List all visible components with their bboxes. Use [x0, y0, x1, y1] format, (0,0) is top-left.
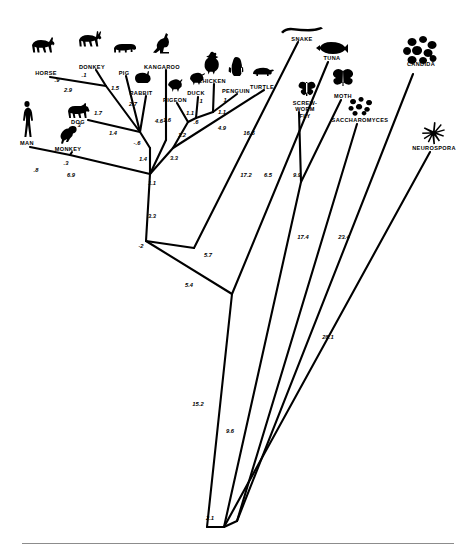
- branch-value: 4.6: [155, 118, 163, 124]
- branch-value: 3.3: [170, 155, 178, 161]
- branch-value: .1: [82, 72, 87, 78]
- branch-value: 1.5: [111, 85, 119, 91]
- taxon-label-neurospora: NEUROSPORA: [412, 145, 456, 151]
- branch-value: 4.9: [218, 125, 226, 131]
- branch-value: .9: [55, 77, 60, 83]
- branch-value: 2.9: [64, 87, 72, 93]
- branch-value: -.6: [134, 140, 141, 146]
- monkey-icon: [61, 126, 77, 144]
- tuna-icon: [316, 42, 348, 54]
- branch-value: 1.2: [178, 132, 186, 138]
- moth-icon: [333, 69, 353, 86]
- branch-value: 1.1: [186, 110, 194, 116]
- branch-value: 9.9: [293, 172, 301, 178]
- branch-value: 3: [77, 122, 80, 128]
- branch-value: 16.5: [243, 130, 254, 136]
- taxon-label-donkey: DONKEY: [79, 64, 105, 70]
- branch-snake: [194, 42, 298, 248]
- dog-icon: [68, 103, 90, 118]
- branch-value: 1.6: [163, 117, 171, 123]
- taxon-label-moth: MOTH: [334, 93, 352, 99]
- taxon-label-turtle: TURTLE: [250, 84, 274, 90]
- taxon-label-candida: CANDIDA: [407, 61, 435, 67]
- taxon-label-rabbit: RABBIT: [129, 90, 152, 96]
- branch-kangaroo-br: [150, 140, 166, 174]
- branch-value: .8: [34, 167, 39, 173]
- branch-duck: [196, 97, 198, 118]
- branch-value: 1.1: [218, 109, 226, 115]
- branch-bird-node-2: [196, 112, 213, 118]
- screwworm-fly-icon: [299, 82, 316, 96]
- taxon-label-horse: HORSE: [35, 70, 57, 76]
- branch-value: 28.1: [322, 334, 333, 340]
- neurospora-icon: [422, 122, 445, 144]
- branch-saccharo: [237, 124, 357, 521]
- phylogenetic-tree-figure: HORSEDONKEYPIGKANGAROORABBITPIGEONDUCKCH…: [0, 0, 476, 557]
- branch-value: 2.7: [129, 101, 137, 107]
- taxon-label-kangaroo: KANGAROO: [144, 64, 180, 70]
- branch-value: 1: [199, 98, 202, 104]
- taxon-label-monkey: MONKEY: [55, 146, 82, 152]
- tree-branch-network: [0, 0, 476, 557]
- taxon-label-pig: PIG: [119, 70, 130, 76]
- branch-value: 1.1: [148, 180, 156, 186]
- donkey-icon: [79, 31, 101, 47]
- branch-insect-node: [224, 182, 301, 527]
- taxon-label-chicken: CHICKEN: [198, 78, 226, 84]
- branch-value: 2.1: [206, 515, 214, 521]
- taxon-label-saccharomyces: SACCHAROMYCES: [332, 117, 389, 123]
- branch-rabbit: [140, 96, 146, 132]
- taxon-label-penguin: PENGUIN: [222, 88, 250, 94]
- candida-icon: [403, 36, 437, 64]
- branch-value: .6: [194, 119, 199, 125]
- taxon-label-snake: SNAKE: [291, 36, 312, 42]
- saccharomyces-icon: [348, 97, 372, 116]
- branch-value: 23.4: [338, 234, 349, 240]
- taxon-label-tuna: TUNA: [324, 55, 341, 61]
- branch-value: 1: [223, 97, 226, 103]
- branch-value: 5.7: [204, 252, 212, 258]
- branch-value: 6.5: [264, 172, 272, 178]
- horse-icon: [32, 37, 55, 53]
- branch-euk-stem: [207, 294, 232, 527]
- branch-value: 1.4: [139, 156, 147, 162]
- branch-value: 5.4: [185, 282, 193, 288]
- branch-value: 6.9: [67, 172, 75, 178]
- branch-chicken: [213, 84, 214, 112]
- branch-value: 17.2: [240, 172, 251, 178]
- taxon-label-pigeon: PIGEON: [163, 97, 187, 103]
- bottom-rule: [22, 543, 454, 544]
- branch-value: 9.6: [226, 428, 234, 434]
- branch-value: 1.4: [109, 130, 117, 136]
- turtle-icon: [253, 68, 274, 76]
- taxon-label-screw-worm-fly: SCREW- WORM FLY: [293, 100, 318, 119]
- man-icon: [23, 101, 33, 137]
- branch-mammal-node: [140, 132, 150, 148]
- pigeon-icon: [168, 79, 182, 92]
- branch-value: 15.2: [192, 401, 203, 407]
- branch-tuna: [232, 62, 328, 294]
- branch-value: .3: [64, 160, 69, 166]
- branch-value: 1.7: [94, 110, 102, 116]
- kangaroo-icon: [153, 33, 169, 54]
- penguin-icon: [229, 57, 244, 76]
- taxon-label-man: MAN: [20, 140, 34, 146]
- branch-value: -2: [138, 243, 143, 249]
- branch-value: 3.3: [148, 213, 156, 219]
- pig-icon: [114, 44, 136, 52]
- chicken-icon: [205, 52, 219, 75]
- snake-icon: [281, 27, 323, 34]
- taxon-label-duck: DUCK: [187, 90, 205, 96]
- rabbit-icon: [135, 71, 151, 83]
- branch-value: 17.4: [297, 234, 308, 240]
